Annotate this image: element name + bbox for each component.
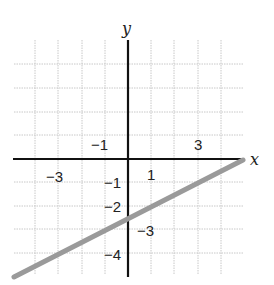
tick-label-x-pos1: 1 <box>147 166 155 183</box>
tick-label-x-neg1: −1 <box>91 136 108 153</box>
y-axis-label: y <box>121 19 132 38</box>
tick-label-y-neg1: −1 <box>104 174 121 191</box>
tick-label-y-neg3: −3 <box>137 222 154 239</box>
x-axis-label: x <box>250 150 259 169</box>
tick-label-y-neg2: −2 <box>104 198 121 215</box>
tick-label-x-neg3: −3 <box>46 168 63 185</box>
tick-label-x-pos3: 3 <box>194 136 202 153</box>
coordinate-plane: y x −3 −1 1 3 −1 −2 −3 −4 <box>0 0 274 285</box>
tick-label-y-neg4: −4 <box>104 246 121 263</box>
